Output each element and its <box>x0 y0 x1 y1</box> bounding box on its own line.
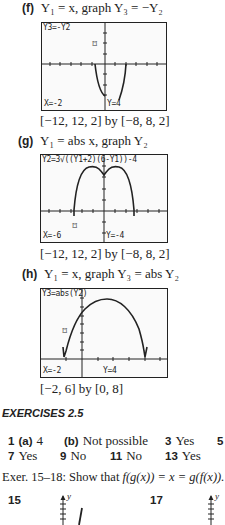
exercise-number: 9 <box>60 450 66 462</box>
sub-label: (a) <box>18 435 32 447</box>
answer-3: 3Yes <box>165 433 194 449</box>
screen-g-y-readout: Y=-4 <box>106 231 124 240</box>
answer-text: Yes <box>175 433 194 448</box>
answer-text: Yes <box>182 448 201 463</box>
answer-7: 7Yes <box>8 448 37 464</box>
answer-text: Yes <box>18 448 37 463</box>
answer-13: 13Yes <box>165 448 201 464</box>
answer-text: No <box>70 448 86 463</box>
cursor-icon: ⌑ <box>62 326 67 336</box>
part-h-label: (h) <box>22 267 37 281</box>
part-h-window: [−2, 6] by [0, 8] <box>40 381 123 397</box>
answer-1b: (b)Not possible <box>64 433 148 449</box>
part-g-label: (g) <box>18 134 33 148</box>
part-g-heading: (g) Y₁ = abs x, graph Y₂ <box>18 133 148 149</box>
part-f-label: (f) <box>22 1 34 15</box>
answer-5: 5 <box>217 433 225 449</box>
part-f-text: Y₁ = x, graph Y₃ = −Y₂ <box>41 0 163 15</box>
exercise-number: 13 <box>165 450 178 462</box>
part-h-heading: (h) Y₁ = x, graph Y₃ = abs Y₂ <box>22 266 179 282</box>
screen-f-y-readout: Y=4 <box>107 99 121 108</box>
part-f-window: [−12, 12, 2] by [−8, 8, 2] <box>40 113 169 129</box>
graph-h <box>41 289 167 377</box>
sub-label: (b) <box>64 435 79 447</box>
calculator-screen-g: Y2=3√((Y1+2)(6-Y1))-4 ⌑ X=-6 Y=-4 <box>40 154 168 243</box>
exercise-number: 11 <box>110 450 122 462</box>
exercise-number: 5 <box>217 435 223 447</box>
answer-9: 9No <box>60 448 86 464</box>
instruction: Exer. 15–18: Show that f(g(x)) = x = g(f… <box>2 470 224 485</box>
part-g-window: [−12, 12, 2] by [−8, 8, 2] <box>40 246 169 262</box>
answer-text: No <box>126 448 142 463</box>
instruction-formula: f(g(x)) = x = g(f(x)). <box>122 470 224 484</box>
exercise-number: 1 <box>8 435 14 447</box>
answer-text: 4 <box>36 433 43 448</box>
figure-15-number: 15 <box>8 494 21 506</box>
screen-g-function: Y2=3√((Y1+2)(6-Y1))-4 <box>42 155 137 164</box>
screen-g-x-readout: X=-6 <box>43 231 61 240</box>
part-g-text: Y₁ = abs x, graph Y₂ <box>40 133 148 148</box>
graph-f <box>42 23 166 110</box>
graph-g <box>41 155 167 242</box>
exercise-number: 7 <box>8 450 14 462</box>
figure-17-number: 17 <box>150 494 163 506</box>
cursor-icon: ⌑ <box>72 221 77 231</box>
answer-11: 11No <box>110 448 142 464</box>
part-h-text: Y₁ = x, graph Y₃ = abs Y₂ <box>44 266 179 281</box>
screen-f-x-readout: X=-2 <box>44 99 62 108</box>
screen-h-x-readout: X=-2 <box>43 366 61 375</box>
answer-row-1: 1(a)4 <box>8 433 43 449</box>
screen-h-y-readout: Y=4 <box>103 366 117 375</box>
exercise-number: 3 <box>165 435 171 447</box>
screen-f-function: Y3=-Y2 <box>43 23 70 32</box>
instruction-prefix: Exer. 15–18: Show that <box>2 470 122 484</box>
calculator-screen-f: Y3=-Y2 ⌑ X=-2 Y=4 <box>41 22 167 111</box>
figure-17-graph <box>203 494 225 525</box>
figure-17-y-label: y <box>215 491 219 501</box>
part-f-heading: (f) Y₁ = x, graph Y₃ = −Y₂ <box>22 0 163 16</box>
calculator-screen-h: Y3=abs(Y2) ⌑ X=-2 Y=4 <box>40 288 168 378</box>
screen-h-function: Y3=abs(Y2) <box>42 289 87 298</box>
figure-15-y-label: y <box>67 491 71 501</box>
cursor-icon: ⌑ <box>92 39 97 49</box>
section-title: EXERCISES 2.5 <box>2 407 83 419</box>
figure-15-graph <box>55 494 95 525</box>
answer-text: Not possible <box>83 433 148 448</box>
